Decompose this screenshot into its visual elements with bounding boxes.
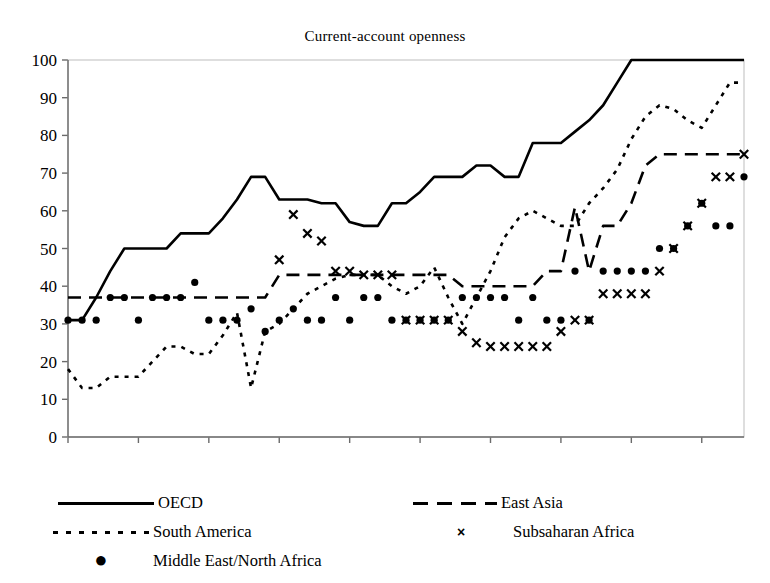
legend-item-subsaharan-africa: × Subsaharan Africa xyxy=(413,518,634,546)
plot-area: 0102030405060708090100 19501955196019651… xyxy=(0,52,770,444)
chart-title: Current-account openness xyxy=(0,28,770,45)
chart-figure: Current-account openness 010203040506070… xyxy=(0,0,770,583)
series-subsaharan-africa xyxy=(275,150,748,351)
plot-frame xyxy=(68,60,744,437)
solid-line-icon xyxy=(58,496,154,510)
x-axis-ticks: 1950195519601965197019751980198519901995 xyxy=(51,437,719,444)
legend-label-subsaharan-africa: Subsaharan Africa xyxy=(513,522,634,542)
x-marker-icon: × xyxy=(413,525,509,539)
svg-text:50: 50 xyxy=(40,240,57,259)
dotted-line-icon xyxy=(53,525,149,539)
legend-item-south-america: South America xyxy=(53,518,252,546)
legend-row-3: ● Middle East/North Africa xyxy=(0,547,770,575)
series-east-asia xyxy=(68,154,744,297)
y-axis-ticks: 0102030405060708090100 xyxy=(32,52,69,444)
svg-text:20: 20 xyxy=(40,353,57,372)
svg-text:40: 40 xyxy=(40,277,57,296)
svg-text:60: 60 xyxy=(40,202,57,221)
series-middle-east-north-africa xyxy=(64,173,747,335)
svg-text:10: 10 xyxy=(40,390,57,409)
svg-text:80: 80 xyxy=(40,126,57,145)
legend-item-east-asia: East Asia xyxy=(413,489,563,517)
plot-svg: 0102030405060708090100 19501955196019651… xyxy=(0,52,770,444)
series-layer xyxy=(64,60,748,388)
legend-item-oecd: OECD xyxy=(58,489,203,517)
legend-label-middle-east-north-africa: Middle East/North Africa xyxy=(153,551,322,571)
svg-text:100: 100 xyxy=(32,52,58,70)
legend-label-oecd: OECD xyxy=(158,493,203,513)
legend-label-east-asia: East Asia xyxy=(501,493,563,513)
series-south-america xyxy=(68,83,744,388)
dot-marker-icon: ● xyxy=(53,554,149,568)
legend-label-south-america: South America xyxy=(153,522,252,542)
svg-text:0: 0 xyxy=(49,428,58,444)
legend-row-1: OECD East Asia xyxy=(0,489,770,517)
legend-row-2: South America × Subsaharan Africa xyxy=(0,518,770,546)
chart-legend: OECD East Asia South America × Subsahara… xyxy=(0,487,770,583)
svg-text:70: 70 xyxy=(40,164,57,183)
series-oecd xyxy=(68,60,744,320)
legend-item-middle-east-north-africa: ● Middle East/North Africa xyxy=(53,547,322,575)
svg-text:30: 30 xyxy=(40,315,57,334)
dashed-line-icon xyxy=(413,496,497,510)
svg-text:90: 90 xyxy=(40,89,57,108)
